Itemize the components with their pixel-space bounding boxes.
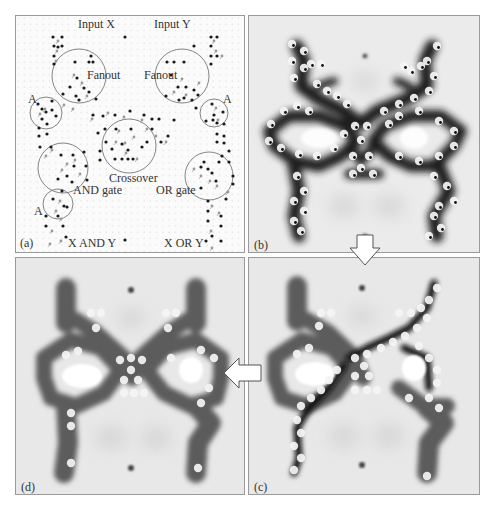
stm-image-d [16, 258, 245, 495]
fanout-right-label: Fanout [144, 68, 177, 83]
input-x-label: Input X [78, 17, 115, 32]
stm-image-c [249, 258, 480, 495]
panel-a-schematic: Input X Input Y Fanout Fanout A A Crosso… [15, 15, 245, 253]
output-or-label: X OR Y [164, 236, 204, 251]
a-label-top-right: A [223, 92, 232, 107]
output-and-label: X AND Y [68, 236, 116, 251]
input-y-label: Input Y [154, 17, 191, 32]
or-gate-label: OR gate [156, 183, 196, 198]
panel-d-stm-image: (d) [15, 257, 245, 495]
schematic-canvas [16, 16, 245, 253]
panel-c-stm-image: (c) [248, 257, 480, 495]
a-label-bottom-left: A [34, 204, 43, 219]
panel-b-stm-image: (b) [248, 15, 480, 253]
panel-b-label: (b) [254, 238, 268, 253]
panel-d-label: (d) [21, 480, 35, 495]
arrow-down-icon [348, 234, 382, 268]
panel-c-label: (c) [254, 480, 267, 495]
a-label-top-left: A [28, 92, 37, 107]
panel-a-label: (a) [20, 236, 33, 251]
stm-image-b [249, 16, 480, 253]
fanout-left-label: Fanout [87, 68, 120, 83]
and-gate-label: AND gate [73, 183, 122, 198]
arrow-left-icon [223, 356, 263, 390]
